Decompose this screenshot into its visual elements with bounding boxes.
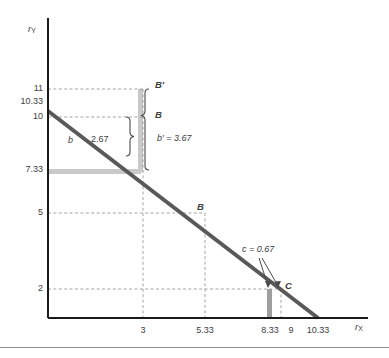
chart-figure: 11 10.33 10 7.33 5 2 3 5.33 8.33 9 10.33…	[0, 0, 389, 358]
x-axis-label: rX	[355, 322, 363, 332]
point-label-c: C	[285, 281, 292, 291]
y-tick-label-2: 2	[8, 284, 43, 293]
highlight-band-vertical-c	[267, 289, 272, 318]
x-tick-label-9: 9	[284, 326, 298, 335]
y-tick-label-11: 11	[8, 84, 43, 93]
y-tick-label-5: 5	[8, 208, 43, 217]
y-tick-label-7p33: 7.33	[4, 165, 43, 174]
highlight-band-vertical-b	[138, 89, 143, 172]
bottom-divider	[0, 347, 389, 348]
brace-b	[126, 117, 134, 156]
point-label-b-upper: B	[155, 110, 162, 120]
annotation-c-value: c = 0.67	[242, 245, 274, 254]
point-label-b-prime: B′	[155, 80, 164, 90]
point-label-b-mid: B	[197, 202, 204, 212]
y-tick-label-10p33: 10.33	[4, 97, 43, 106]
annotation-b-value: 2.67	[91, 135, 109, 144]
annotation-b-label: b	[68, 136, 73, 145]
x-tick-label-10p33: 10.33	[298, 326, 338, 335]
x-tick-label-5p33: 5.33	[185, 326, 225, 335]
y-axis-label: rY	[28, 24, 36, 34]
y-tick-label-10: 10	[8, 112, 43, 121]
x-tick-label-3: 3	[123, 326, 163, 335]
chart-canvas	[0, 0, 389, 358]
annotation-b-prime-value: b′ = 3.67	[157, 134, 191, 143]
